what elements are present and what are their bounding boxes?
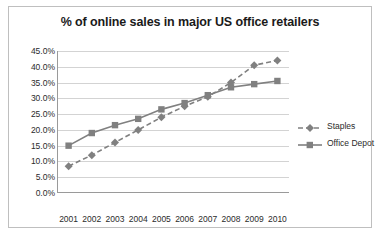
y-axis-tick-label: 45.0% bbox=[15, 46, 55, 56]
x-axis-tick-label: 2010 bbox=[268, 214, 287, 224]
y-axis-tick-label: 10.0% bbox=[15, 156, 55, 166]
y-axis-tick-label: 0.0% bbox=[15, 188, 55, 198]
chart-legend: StaplesOffice Depot bbox=[297, 117, 382, 151]
data-point bbox=[273, 56, 281, 64]
data-point bbox=[65, 142, 71, 148]
square-marker-icon bbox=[297, 137, 323, 149]
data-point bbox=[274, 78, 280, 84]
chart-container: % of online sales in major US office ret… bbox=[8, 6, 372, 228]
data-point bbox=[135, 116, 141, 122]
series-staples bbox=[65, 56, 282, 170]
series-office-depot bbox=[65, 78, 280, 149]
y-axis: 0.0%5.0%10.0%15.0%20.0%25.0%30.0%35.0%40… bbox=[15, 45, 55, 199]
x-axis-tick-label: 2007 bbox=[198, 214, 217, 224]
series-line bbox=[69, 60, 278, 166]
x-axis-tick-label: 2006 bbox=[175, 214, 194, 224]
x-axis-tick-label: 2003 bbox=[106, 214, 125, 224]
data-point bbox=[158, 106, 164, 112]
y-axis-tick-label: 20.0% bbox=[15, 125, 55, 135]
x-axis: 2001200220032004200520062007200820092010 bbox=[57, 214, 289, 228]
x-axis-tick-label: 2001 bbox=[59, 214, 78, 224]
data-point bbox=[250, 61, 258, 69]
legend-label: Staples bbox=[323, 121, 355, 131]
x-axis-tick-label: 2008 bbox=[222, 214, 241, 224]
y-axis-tick-label: 15.0% bbox=[15, 141, 55, 151]
diamond-marker-icon bbox=[297, 120, 323, 132]
legend-item-office-depot[interactable]: Office Depot bbox=[297, 134, 382, 151]
x-axis-tick-label: 2004 bbox=[129, 214, 148, 224]
data-point bbox=[65, 162, 73, 170]
data-point bbox=[134, 126, 142, 134]
data-point bbox=[89, 130, 95, 136]
data-point bbox=[111, 139, 119, 147]
x-axis-tick-label: 2002 bbox=[82, 214, 101, 224]
y-axis-tick-label: 30.0% bbox=[15, 93, 55, 103]
gridline bbox=[58, 193, 289, 194]
y-axis-tick-label: 35.0% bbox=[15, 78, 55, 88]
data-point bbox=[181, 100, 187, 106]
x-axis-tick-label: 2005 bbox=[152, 214, 171, 224]
data-point bbox=[157, 113, 165, 121]
series-line bbox=[69, 81, 278, 146]
x-axis-tick-label: 2009 bbox=[245, 214, 264, 224]
data-point bbox=[112, 122, 118, 128]
chart-title: % of online sales in major US office ret… bbox=[9, 15, 371, 29]
data-point bbox=[251, 81, 257, 87]
data-point bbox=[205, 92, 211, 98]
y-axis-tick-label: 5.0% bbox=[15, 172, 55, 182]
series-layer bbox=[57, 51, 289, 193]
legend-item-staples[interactable]: Staples bbox=[297, 117, 382, 134]
y-axis-tick-label: 25.0% bbox=[15, 109, 55, 119]
legend-label: Office Depot bbox=[323, 138, 374, 148]
y-axis-tick-label: 40.0% bbox=[15, 62, 55, 72]
data-point bbox=[228, 84, 234, 90]
data-point bbox=[88, 151, 96, 159]
